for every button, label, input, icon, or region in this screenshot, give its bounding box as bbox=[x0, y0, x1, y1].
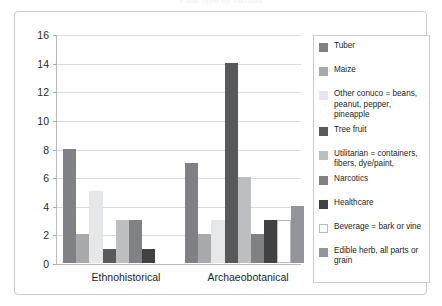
y-tick-label-6: 6 bbox=[43, 172, 49, 184]
legend-swatch-icon bbox=[319, 91, 328, 100]
bar bbox=[225, 63, 238, 263]
legend-item[interactable]: Maize bbox=[319, 65, 425, 85]
plot-area: 1614121086420 EthnohistoricalArchaeobota… bbox=[56, 35, 301, 265]
tick-mark-0 bbox=[53, 264, 57, 265]
bar bbox=[264, 220, 277, 263]
bar bbox=[89, 191, 102, 263]
legend-item[interactable]: Utilitarian = containers, fibers, dye/pa… bbox=[319, 149, 425, 170]
chart-frame: 1614121086420 EthnohistoricalArchaeobota… bbox=[14, 11, 427, 295]
legend-item[interactable]: Edible herb, all parts or grain bbox=[319, 246, 425, 267]
y-tick-label-12: 12 bbox=[37, 86, 49, 98]
bar bbox=[76, 234, 89, 263]
legend-item[interactable]: Beverage = bark or vine bbox=[319, 222, 425, 242]
legend-item[interactable]: Tuber bbox=[319, 41, 425, 61]
bar bbox=[142, 249, 155, 263]
y-tick-label-4: 4 bbox=[43, 201, 49, 213]
y-tick-label-8: 8 bbox=[43, 144, 49, 156]
legend-item-label: Tuber bbox=[334, 41, 355, 52]
legend-item-label: Maize bbox=[334, 65, 356, 76]
legend-item[interactable]: Tree fruit bbox=[319, 125, 425, 145]
y-tick-label-2: 2 bbox=[43, 229, 49, 241]
legend-swatch-icon bbox=[319, 127, 328, 136]
figure-container: Food type by method 1614121086420 Ethnoh… bbox=[0, 0, 442, 306]
bar bbox=[198, 234, 211, 263]
x-axis-label-archaeobotanical: Archaeobotanical bbox=[207, 271, 288, 283]
bar bbox=[185, 163, 198, 263]
bar bbox=[103, 249, 116, 263]
legend-swatch-icon bbox=[319, 224, 328, 233]
legend-item-label: Edible herb, all parts or grain bbox=[334, 246, 425, 267]
bar bbox=[251, 234, 264, 263]
legend-item-label: Other conuco = beans, peanut, pepper, pi… bbox=[334, 89, 425, 121]
bar bbox=[291, 206, 304, 263]
legend-item-label: Tree fruit bbox=[334, 125, 366, 136]
bar bbox=[63, 149, 76, 264]
legend-item-label: Narcotics bbox=[334, 174, 368, 185]
x-axis-label-ethnohistorical: Ethnohistorical bbox=[92, 271, 161, 283]
legend-item[interactable]: Healthcare bbox=[319, 198, 425, 218]
y-tick-label-10: 10 bbox=[37, 115, 49, 127]
chart-legend: TuberMaizeOther conuco = beans, peanut, … bbox=[313, 35, 430, 283]
legend-item-label: Healthcare bbox=[334, 198, 374, 209]
legend-item[interactable]: Other conuco = beans, peanut, pepper, pi… bbox=[319, 89, 425, 121]
y-tick-label-0: 0 bbox=[43, 258, 49, 270]
bar bbox=[211, 220, 224, 263]
plot-axes: 1614121086420 bbox=[56, 35, 301, 265]
y-tick-label-16: 16 bbox=[37, 29, 49, 41]
bar bbox=[238, 177, 251, 263]
legend-swatch-icon bbox=[319, 151, 328, 160]
y-tick-label-14: 14 bbox=[37, 58, 49, 70]
bar-series-group bbox=[57, 35, 301, 264]
legend-swatch-icon bbox=[319, 43, 328, 52]
legend-swatch-icon bbox=[319, 176, 328, 185]
legend-swatch-icon bbox=[319, 67, 328, 76]
legend-item-label: Beverage = bark or vine bbox=[334, 222, 421, 233]
bar bbox=[116, 220, 129, 263]
gridline-0 bbox=[57, 264, 301, 265]
legend-swatch-icon bbox=[319, 248, 328, 257]
legend-swatch-icon bbox=[319, 200, 328, 209]
chart-title: Food type by method bbox=[0, 0, 442, 5]
bar bbox=[129, 220, 142, 263]
legend-item-label: Utilitarian = containers, fibers, dye/pa… bbox=[334, 149, 425, 170]
legend-item[interactable]: Narcotics bbox=[319, 174, 425, 194]
bar bbox=[277, 220, 290, 263]
